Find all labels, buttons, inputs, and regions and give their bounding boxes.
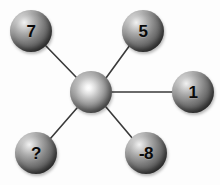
node-7-label: 7 <box>27 23 36 40</box>
spoke-hub-to-? <box>50 108 77 139</box>
node-question-mark[interactable]: ? <box>15 132 57 174</box>
node-minus-8-label: -8 <box>139 145 153 162</box>
node-7[interactable]: 7 <box>10 10 52 52</box>
node-1[interactable]: 1 <box>172 71 214 113</box>
center-node[interactable] <box>70 71 112 113</box>
node-5[interactable]: 5 <box>122 10 164 52</box>
star-diagram: 7 5 1 -8 ? <box>0 0 220 185</box>
spoke-hub-to--8 <box>106 107 133 139</box>
node-5-label: 5 <box>139 23 148 40</box>
spoke-hub-to-7 <box>46 46 76 77</box>
node-question-mark-label: ? <box>31 145 41 162</box>
node-minus-8[interactable]: -8 <box>125 132 167 174</box>
node-1-label: 1 <box>189 84 198 101</box>
spoke-hub-to-5 <box>106 45 130 78</box>
